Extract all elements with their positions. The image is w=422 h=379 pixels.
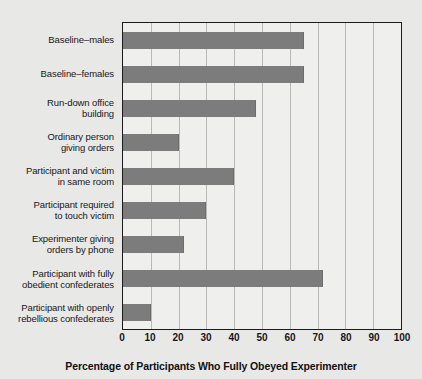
bar-series: [123, 23, 401, 329]
x-tick-label: 10: [144, 332, 155, 343]
bar-chart: Baseline–males Baseline–females Run-down…: [0, 0, 422, 379]
x-axis-title: Percentage of Participants Who Fully Obe…: [0, 360, 422, 372]
category-label: Ordinary person giving orders: [0, 125, 118, 159]
bar: [123, 168, 234, 185]
bar: [123, 32, 304, 49]
x-tick-label: 100: [394, 332, 411, 343]
category-label: Participant with openly rebellious confe…: [0, 296, 118, 330]
category-label: Experimenter giving orders by phone: [0, 227, 118, 261]
bar: [123, 270, 323, 287]
bar-row: [123, 227, 401, 261]
x-tick-label: 20: [172, 332, 183, 343]
bar-row: [123, 125, 401, 159]
bar: [123, 134, 179, 151]
x-tick-label: 0: [119, 332, 125, 343]
bar: [123, 66, 304, 83]
category-label: Participant with fully obedient confeder…: [0, 262, 118, 296]
plot-area: [122, 22, 402, 330]
category-axis-labels: Baseline–males Baseline–females Run-down…: [0, 22, 118, 330]
bar-row: [123, 295, 401, 329]
category-label: Baseline–females: [0, 56, 118, 90]
bar: [123, 100, 256, 117]
x-tick-label: 50: [256, 332, 267, 343]
bar-row: [123, 91, 401, 125]
bar-row: [123, 193, 401, 227]
x-tick-label: 40: [228, 332, 239, 343]
x-tick-label: 30: [200, 332, 211, 343]
bar-row: [123, 261, 401, 295]
bar-row: [123, 57, 401, 91]
bar-row: [123, 23, 401, 57]
bar: [123, 304, 151, 321]
category-label: Baseline–males: [0, 22, 118, 56]
x-tick-label: 60: [284, 332, 295, 343]
x-tick-label: 70: [312, 332, 323, 343]
x-axis-ticks: 0102030405060708090100: [122, 332, 402, 348]
bar: [123, 202, 206, 219]
category-label: Participant and victim in same room: [0, 159, 118, 193]
bar-row: [123, 159, 401, 193]
x-tick-label: 80: [340, 332, 351, 343]
category-label: Participant required to touch victim: [0, 193, 118, 227]
x-tick-label: 90: [368, 332, 379, 343]
bar: [123, 236, 184, 253]
category-label: Run-down office building: [0, 90, 118, 124]
